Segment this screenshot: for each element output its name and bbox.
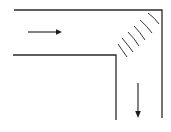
outer-wall: [14, 10, 162, 118]
channel-walls: [13, 10, 162, 120]
inner-wall: [13, 55, 116, 120]
arrow-down-icon: [135, 83, 141, 118]
arrow-right-icon: [28, 29, 62, 35]
channel-bend-diagram: [0, 0, 171, 132]
wave-arcs: [118, 13, 159, 57]
